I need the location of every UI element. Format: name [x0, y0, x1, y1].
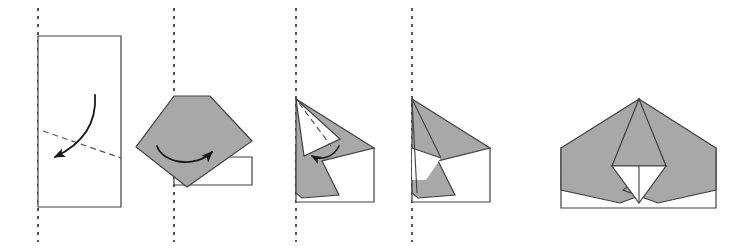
- step-1-group: [38, 8, 121, 242]
- step-1-paper-rectangle: [38, 36, 121, 207]
- origami-diagram-canvas: [0, 0, 732, 250]
- origami-diagram: Origami folding sequence Five-step instr…: [0, 0, 732, 250]
